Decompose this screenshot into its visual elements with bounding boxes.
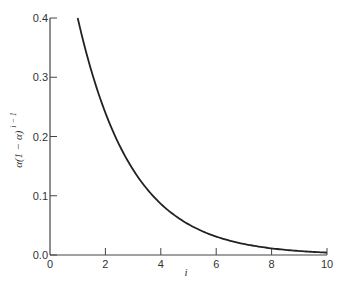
- y-tick-label: 0.4: [33, 12, 48, 24]
- y-axis-label: α(1 − α) i − 1: [9, 112, 25, 168]
- y-tick-label: 0.1: [33, 190, 48, 202]
- series-line: [78, 18, 327, 253]
- y-tick-label: 0.0: [33, 249, 48, 261]
- y-axis-label-main: α(1 − α): [12, 130, 25, 168]
- x-tick-label: 4: [158, 258, 164, 270]
- x-tick-label: 0: [47, 258, 53, 270]
- ticks: 0.00.10.20.30.40246810: [33, 12, 333, 270]
- x-axis-label: i: [184, 266, 187, 278]
- axes: [50, 18, 327, 255]
- x-tick-label: 6: [213, 258, 219, 270]
- y-tick-label: 0.3: [33, 71, 48, 83]
- x-tick-label: 10: [321, 258, 333, 270]
- x-tick-label: 8: [269, 258, 275, 270]
- svg-text:α(1 − α) i − 1: α(1 − α) i − 1: [9, 112, 25, 168]
- y-tick-label: 0.2: [33, 131, 48, 143]
- y-axis-label-superscript: i − 1: [9, 112, 18, 128]
- chart: 0.00.10.20.30.40246810 i α(1 − α) i − 1: [0, 0, 340, 286]
- series: [78, 18, 327, 253]
- x-tick-label: 2: [102, 258, 108, 270]
